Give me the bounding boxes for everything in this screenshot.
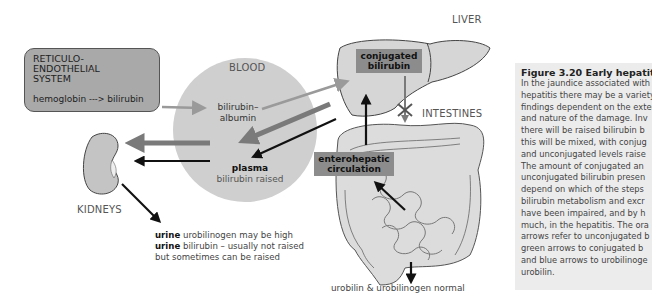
bilirubin-label: bilirubin <box>107 94 144 104</box>
re-title: RETICULO- ENDOTHELIAL SYSTEM <box>33 54 100 84</box>
intestines-label: INTESTINES <box>422 108 482 119</box>
bilirubin-albumin-label: bilirubin– albumin <box>208 102 268 124</box>
urobilin-note: urobilin & urobilinogen normal <box>331 283 465 293</box>
kidneys-label: KIDNEYS <box>77 204 122 215</box>
urine-findings: urine urobilinogen may be high urine bil… <box>155 230 304 263</box>
re-flow: hemoglobin ---> bilirubin <box>33 94 144 104</box>
intestines-shape <box>336 123 484 285</box>
conjugated-bilirubin-box: conjugated bilirubin <box>356 49 422 73</box>
reticuloendothelial-box: RETICULO- ENDOTHELIAL SYSTEM hemoglobin … <box>24 48 160 112</box>
dashed-arrow-icon: ---> <box>89 95 104 104</box>
caption-body: In the jaundice associated with hepatiti… <box>521 78 652 279</box>
figure-caption: Figure 3.20 Early hepatitis. In the jaun… <box>515 63 652 290</box>
enterohepatic-circulation-box: enterohepatic circulation <box>314 152 394 176</box>
blood-label: BLOOD <box>229 62 266 73</box>
liver-label: LIVER <box>452 14 482 25</box>
caption-title: Figure 3.20 Early hepatitis. <box>521 67 652 78</box>
plasma-label: plasma bilirubin raised <box>190 163 310 185</box>
hemoglobin-label: hemoglobin <box>33 94 86 104</box>
